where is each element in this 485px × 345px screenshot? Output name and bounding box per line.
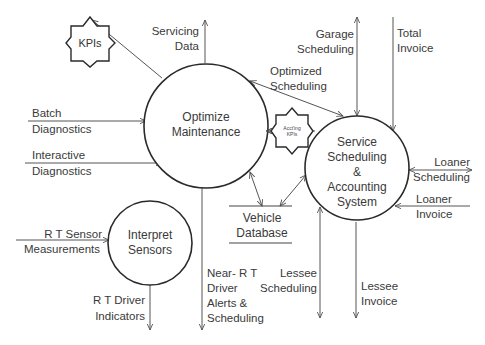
flow-optimize-database [250, 172, 262, 206]
label-optimized-scheduling: Scheduling [270, 80, 327, 92]
process-label: Sensors [128, 243, 172, 257]
label-loaner-scheduling: Loaner [434, 156, 470, 168]
process-label: & [353, 165, 361, 179]
label-batch-diagnostics: Batch [32, 107, 61, 119]
label-loaner-scheduling: Scheduling [413, 171, 470, 183]
label-interactive-diagnostics: Diagnostics [32, 165, 92, 177]
label-servicing-data: Servicing [152, 25, 199, 37]
flow-service-database [280, 175, 306, 206]
label-near-rt: Driver [207, 282, 238, 294]
label-lessee-invoice: Lessee [361, 280, 398, 292]
label-loaner-invoice: Invoice [416, 208, 452, 220]
label-rt-driver: R T Driver [93, 294, 145, 306]
kpis-star[interactable]: KPIs [66, 17, 115, 67]
label-lessee-invoice: Invoice [361, 295, 397, 307]
label-loaner-invoice: Loaner [416, 193, 452, 205]
accting-label: KPIs [287, 131, 298, 137]
kpis-label: KPIs [78, 37, 102, 49]
label-total-invoice: Invoice [397, 42, 433, 54]
label-servicing-data: Data [175, 40, 200, 52]
process-label: Maintenance [172, 125, 241, 139]
label-optimized-scheduling: Optimized [270, 65, 322, 77]
label-rt-driver: Indicators [95, 310, 145, 322]
process-label: System [337, 195, 377, 209]
process-label: Accounting [327, 180, 386, 194]
label-rt-sensor: R T Sensor [44, 228, 102, 240]
label-batch-diagnostics: Diagnostics [32, 123, 92, 135]
data-flow-diagram: Optimize Maintenance Service Scheduling … [0, 0, 485, 345]
label-garage-scheduling: Scheduling [297, 43, 354, 55]
label-total-invoice: Total [397, 27, 421, 39]
label-near-rt: Alerts & [207, 297, 248, 309]
process-label: Interpret [128, 228, 173, 242]
label-garage-scheduling: Garage [316, 28, 354, 40]
label-rt-sensor: Measurements [24, 243, 100, 255]
label-interactive-diagnostics: Interactive [32, 149, 85, 161]
process-label: Service [337, 135, 377, 149]
label-lessee-scheduling: Scheduling [260, 282, 317, 294]
label-near-rt: Near- R T [207, 267, 257, 279]
accting-kpis-star[interactable]: Acct'ing KPIs [266, 108, 313, 154]
process-label: Scheduling [327, 150, 386, 164]
store-label: Database [236, 226, 288, 240]
data-store-vehicle-database[interactable]: Vehicle Database [229, 206, 292, 243]
process-label: Optimize [182, 110, 230, 124]
process-interpret-sensors[interactable]: Interpret Sensors [108, 201, 192, 285]
process-optimize-maintenance[interactable]: Optimize Maintenance [144, 64, 268, 188]
store-label: Vehicle [243, 211, 282, 225]
process-service-scheduling[interactable]: Service Scheduling & Accounting System [305, 116, 409, 220]
label-lessee-scheduling: Lessee [280, 267, 317, 279]
label-near-rt: Scheduling [207, 312, 264, 324]
